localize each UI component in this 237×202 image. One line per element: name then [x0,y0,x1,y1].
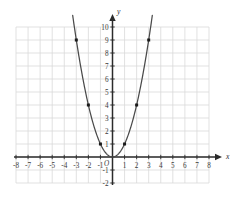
y-tick-label: 1 [105,141,109,149]
data-point-marker [87,104,90,107]
y-tick-label: 7 [105,63,109,71]
x-tick-label: -8 [13,162,19,170]
y-axis-name: y [116,7,121,16]
origin-label-text: O [104,160,110,168]
x-tick-label: 2 [135,162,139,170]
parabola-chart: -8-7-6-5-4-3-2-112345678 -2-112345678910… [0,0,237,202]
data-point-marker [123,143,126,146]
y-tick-label: 9 [105,37,109,45]
y-tick-label: 4 [105,102,109,110]
x-tick-label: -4 [61,162,67,170]
x-axis-name: x [225,152,230,161]
x-tick-label: -3 [73,162,79,170]
y-tick-label: 2 [105,128,109,136]
x-tick-label: -7 [25,162,31,170]
x-tick-label: 4 [159,162,163,170]
y-tick-label: -1 [103,167,109,175]
x-tick-label: -5 [49,162,55,170]
y-tick-label: 8 [105,50,109,58]
x-tick-label: -6 [37,162,43,170]
data-point-marker [147,39,150,42]
y-tick-label: -2 [103,180,109,188]
graph-container: -8-7-6-5-4-3-2-112345678 -2-112345678910… [0,0,237,202]
x-tick-label: 6 [183,162,187,170]
x-tick-label: 1 [123,162,127,170]
x-tick-label: 8 [207,162,211,170]
x-tick-label: -2 [85,162,91,170]
x-tick-label: 3 [147,162,151,170]
y-tick-label: 3 [105,115,109,123]
data-point-marker [135,104,138,107]
origin-label: O [104,160,110,168]
y-tick-label: 5 [105,89,109,97]
x-tick-label: 7 [195,162,199,170]
data-point-marker [75,39,78,42]
y-tick-label: 6 [105,76,109,84]
x-tick-label: 5 [171,162,175,170]
chart-background [0,0,237,202]
data-point-marker [99,143,102,146]
y-tick-label: 10 [101,24,109,32]
